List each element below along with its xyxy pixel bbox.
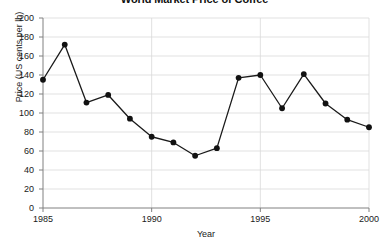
y-tick-label: 140: [4, 71, 34, 80]
x-tick-label: 1995: [240, 215, 280, 224]
y-tick-label: 200: [4, 14, 34, 23]
coffee-price-line-chart: World Market Price of Coffee Price (US c…: [0, 0, 389, 248]
y-tick-label: 120: [4, 90, 34, 99]
y-tick-label: 20: [4, 185, 34, 194]
x-tick-label: 2000: [349, 215, 389, 224]
data-point: [40, 77, 46, 83]
data-point: [344, 117, 350, 123]
data-point: [236, 75, 242, 81]
y-tick-label: 160: [4, 52, 34, 61]
y-tick-label: 0: [4, 204, 34, 213]
data-point: [171, 140, 177, 146]
data-point: [84, 100, 90, 106]
data-point: [127, 116, 133, 122]
y-tick-label: 60: [4, 147, 34, 156]
y-tick-label: 80: [4, 128, 34, 137]
data-point: [257, 72, 263, 78]
x-tick-label: 1985: [23, 215, 63, 224]
gridlines: [43, 18, 369, 208]
data-line: [43, 45, 369, 156]
y-tick-label: 100: [4, 109, 34, 118]
data-point: [301, 71, 307, 77]
data-point: [149, 134, 155, 140]
data-point: [279, 105, 285, 111]
data-points: [40, 42, 372, 159]
y-tick-label: 40: [4, 166, 34, 175]
data-point: [105, 92, 111, 98]
data-point: [192, 153, 198, 159]
x-tick-label: 1990: [132, 215, 172, 224]
ticks: [39, 18, 369, 212]
data-point: [323, 101, 329, 107]
data-point: [214, 145, 220, 151]
plot-area: [0, 0, 389, 248]
data-point: [62, 42, 68, 48]
data-point: [366, 124, 372, 130]
y-tick-label: 180: [4, 33, 34, 42]
